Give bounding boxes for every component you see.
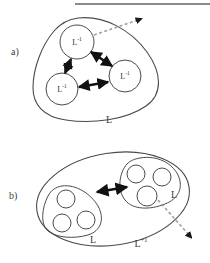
panel-b-right-node-3 [137,186,157,206]
panel-a-label: a) [11,46,19,57]
node-label-sup: -1 [62,83,67,89]
panel-b-right-group-label: L [171,189,177,200]
panel-a-node-bottom-left-label: L-1 [57,85,66,94]
node-label-sup: -1 [125,70,130,76]
set-label-sup: +1 [141,236,148,243]
panel-b-left-node-1 [57,190,75,208]
panel-a-node-right-label: L-1 [120,72,129,81]
panel-a-arrow-top-bottomleft [65,59,71,73]
panel-a-dashed-arrow [94,20,138,35]
panel-b-arrow-left-right [97,187,127,192]
panel-a-arrow-bottomleft-right [79,82,108,87]
panel-b-right-node-2 [153,168,171,186]
figure-container: a) L-1 L-1 L-1 L b) L L L+1 [0,0,210,263]
panel-a-outer-set-label: L [106,114,112,125]
diagram-canvas [0,0,210,263]
panel-b-right-node-1 [127,165,145,183]
panel-b-left-group-label: L [90,234,96,245]
panel-b-left-node-2 [53,214,71,232]
panel-a-arrow-top-right [91,52,112,66]
panel-a-node-top-label: L-1 [72,38,81,47]
panel-b-outer-set-label: L+1 [134,238,147,249]
panel-a [33,18,159,122]
panel-b-label: b) [9,190,17,201]
node-label-sup: -1 [77,36,82,42]
panel-b-left-node-3 [77,211,95,229]
